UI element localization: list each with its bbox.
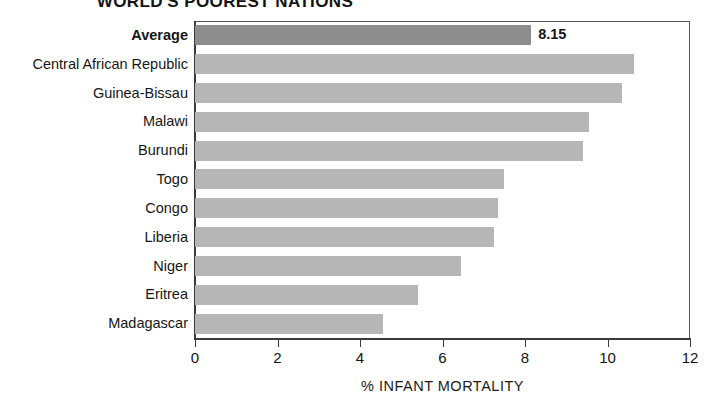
category-axis-labels: AverageCentral African RepublicGuinea-Bi…	[0, 21, 188, 338]
category-label: Niger	[0, 252, 188, 281]
bar-row	[195, 50, 690, 79]
x-tick-label: 12	[682, 349, 699, 366]
x-tick-mark	[608, 338, 609, 347]
chart-title: WORLD'S POOREST NATIONS	[0, 0, 450, 13]
x-axis-title: % INFANT MORTALITY	[195, 378, 690, 394]
bar-chart: WORLD'S POOREST NATIONS AverageCentral A…	[0, 0, 712, 416]
category-label: Average	[0, 21, 188, 50]
category-label: Guinea-Bissau	[0, 79, 188, 108]
bar	[195, 256, 461, 276]
bar-row	[195, 309, 690, 338]
x-tick-mark	[278, 338, 279, 347]
bar	[195, 83, 622, 103]
bar-row	[195, 194, 690, 223]
x-tick-mark	[443, 338, 444, 347]
x-tick-mark	[195, 338, 196, 347]
category-label: Congo	[0, 194, 188, 223]
bar-value-label: 8.15	[538, 26, 566, 42]
bar	[195, 25, 531, 45]
bar	[195, 285, 418, 305]
bar-row	[195, 136, 690, 165]
x-tick-label: 4	[356, 349, 364, 366]
bar	[195, 314, 383, 334]
bar	[195, 54, 634, 74]
x-tick-label: 10	[599, 349, 616, 366]
bar	[195, 141, 583, 161]
bar-row	[195, 252, 690, 281]
bar-row	[195, 165, 690, 194]
bar-row: 8.15	[195, 21, 690, 50]
x-tick-mark	[360, 338, 361, 347]
bar	[195, 227, 494, 247]
category-label: Togo	[0, 165, 188, 194]
x-tick-label: 0	[191, 349, 199, 366]
x-tick-label: 8	[521, 349, 529, 366]
bars-layer: 8.15	[195, 21, 690, 338]
category-label: Malawi	[0, 107, 188, 136]
bar-row	[195, 107, 690, 136]
bar-row	[195, 280, 690, 309]
bar-row	[195, 223, 690, 252]
bar	[195, 112, 589, 132]
x-tick-label: 2	[273, 349, 281, 366]
category-label: Liberia	[0, 223, 188, 252]
bar	[195, 198, 498, 218]
x-tick-label: 6	[438, 349, 446, 366]
category-label: Eritrea	[0, 280, 188, 309]
category-label: Central African Republic	[0, 50, 188, 79]
x-tick-mark	[525, 338, 526, 347]
bar	[195, 169, 504, 189]
category-label: Burundi	[0, 136, 188, 165]
bar-row	[195, 79, 690, 108]
category-label: Madagascar	[0, 309, 188, 338]
x-tick-mark	[690, 338, 691, 347]
